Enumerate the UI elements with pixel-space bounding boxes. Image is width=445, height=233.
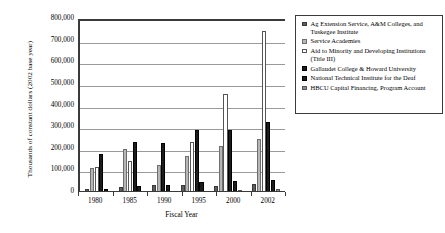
bar[interactable] bbox=[185, 156, 189, 192]
plot-area bbox=[78, 19, 285, 192]
legend-item-label: HBCU Capital Financing, Program Account bbox=[311, 84, 426, 92]
y-axis-tick-label: 0 bbox=[30, 188, 74, 195]
legend-item-label: Service Academies bbox=[311, 37, 361, 45]
y-axis-tick-label: 700,000 bbox=[30, 37, 74, 44]
bar[interactable] bbox=[262, 31, 266, 192]
x-axis-ticks bbox=[78, 192, 285, 196]
legend-item-label: National Technical Institute for the Dea… bbox=[311, 74, 416, 82]
legend-swatch-icon bbox=[302, 39, 307, 44]
x-axis-tick bbox=[147, 192, 148, 196]
bar[interactable] bbox=[266, 122, 270, 192]
legend: Ag Extension Service, A&M Colleges, and … bbox=[295, 15, 443, 114]
y-axis-tick-label: 300,000 bbox=[30, 124, 74, 131]
legend-swatch-icon bbox=[302, 66, 307, 71]
bar[interactable] bbox=[99, 154, 103, 192]
bar[interactable] bbox=[190, 142, 194, 192]
x-axis-tick bbox=[78, 192, 79, 196]
legend-swatch-icon bbox=[302, 76, 307, 81]
legend-swatch-icon bbox=[302, 49, 307, 54]
x-axis-tick bbox=[216, 192, 217, 196]
legend-item-label: Gallaudet College & Howard University bbox=[311, 65, 416, 73]
legend-item[interactable]: National Technical Institute for the Dea… bbox=[302, 74, 439, 82]
y-axis-tick-label: 100,000 bbox=[30, 167, 74, 174]
x-axis-tick-label: 2002 bbox=[248, 197, 288, 206]
bar[interactable] bbox=[223, 94, 227, 192]
bar[interactable] bbox=[219, 146, 223, 192]
bar[interactable] bbox=[128, 161, 132, 192]
x-axis-tick-labels: 198019851990199520002002 bbox=[78, 197, 285, 209]
bar-group bbox=[214, 21, 242, 192]
x-axis-title: Fiscal Year bbox=[78, 210, 285, 219]
legend-item[interactable]: HBCU Capital Financing, Program Account bbox=[302, 84, 439, 92]
bar-group bbox=[152, 21, 170, 192]
y-axis-tick-label: 600,000 bbox=[30, 59, 74, 66]
x-axis-tick bbox=[182, 192, 183, 196]
bar[interactable] bbox=[90, 168, 94, 192]
x-axis-tick bbox=[285, 192, 286, 196]
bar-group bbox=[181, 21, 204, 192]
bar-chart: Thousands of constant dollars (2002 base… bbox=[0, 0, 445, 233]
legend-swatch-icon bbox=[302, 22, 307, 27]
bar-group bbox=[252, 21, 280, 192]
bar[interactable] bbox=[95, 167, 99, 192]
bar-group bbox=[119, 21, 142, 192]
legend-item[interactable]: Ag Extension Service, A&M Colleges, and … bbox=[302, 20, 439, 35]
y-axis-tick-labels: 800,000700,000600,000500,000400,000300,0… bbox=[30, 18, 74, 193]
x-axis-tick bbox=[113, 192, 114, 196]
legend-item[interactable]: Service Academies bbox=[302, 37, 439, 45]
y-axis-tick-label: 400,000 bbox=[30, 102, 74, 109]
legend-swatch-icon bbox=[302, 86, 307, 91]
bar[interactable] bbox=[228, 130, 232, 192]
bar[interactable] bbox=[195, 130, 199, 192]
x-axis-tick bbox=[251, 192, 252, 196]
legend-item-label: Aid to Minority and Developing Instituti… bbox=[311, 47, 439, 62]
bar[interactable] bbox=[257, 139, 261, 192]
bar[interactable] bbox=[157, 165, 161, 192]
legend-item-label: Ag Extension Service, A&M Colleges, and … bbox=[311, 20, 439, 35]
bar[interactable] bbox=[123, 149, 127, 192]
y-axis-tick-label: 800,000 bbox=[30, 15, 74, 22]
bar[interactable] bbox=[161, 143, 165, 192]
bars-layer bbox=[80, 21, 285, 192]
bar-group bbox=[85, 21, 108, 192]
y-axis-tick-label: 200,000 bbox=[30, 145, 74, 152]
bar[interactable] bbox=[133, 142, 137, 192]
legend-item[interactable]: Aid to Minority and Developing Instituti… bbox=[302, 47, 439, 62]
legend-item[interactable]: Gallaudet College & Howard University bbox=[302, 65, 439, 73]
y-axis-tick-label: 500,000 bbox=[30, 80, 74, 87]
